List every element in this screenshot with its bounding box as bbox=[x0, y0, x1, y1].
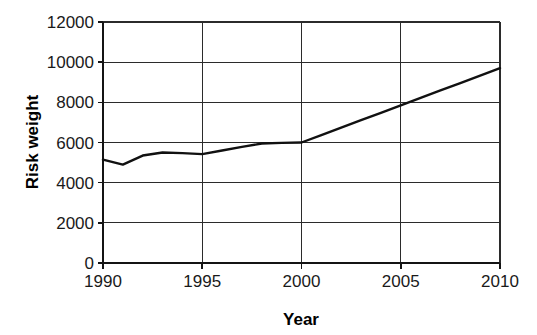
y-tick-label-4000: 4000 bbox=[56, 174, 94, 193]
x-tick-label-2010: 2010 bbox=[481, 272, 519, 291]
y-tick-label-12000: 12000 bbox=[47, 13, 94, 32]
y-axis-title: Risk weight bbox=[23, 94, 42, 189]
y-tick-label-0: 0 bbox=[85, 254, 94, 273]
chart-background bbox=[0, 0, 537, 335]
y-tick-label-6000: 6000 bbox=[56, 134, 94, 153]
x-axis-title: Year bbox=[283, 310, 319, 329]
y-tick-label-8000: 8000 bbox=[56, 93, 94, 112]
x-tick-label-2000: 2000 bbox=[283, 272, 321, 291]
y-tick-label-10000: 10000 bbox=[47, 53, 94, 72]
chart-canvas: 020004000600080001000012000 199019952000… bbox=[0, 0, 537, 335]
x-tick-label-1990: 1990 bbox=[84, 272, 122, 291]
x-tick-label-2005: 2005 bbox=[382, 272, 420, 291]
line-chart: 020004000600080001000012000 199019952000… bbox=[0, 0, 537, 335]
y-tick-label-2000: 2000 bbox=[56, 214, 94, 233]
x-tick-label-1995: 1995 bbox=[183, 272, 221, 291]
